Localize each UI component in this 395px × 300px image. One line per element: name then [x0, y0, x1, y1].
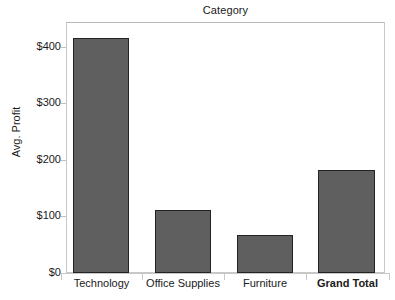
x-axis-line — [61, 273, 390, 274]
y-tick-mark-300 — [61, 103, 66, 104]
chart-title: Category — [66, 3, 385, 17]
y-tick-label-400: $400 — [1, 41, 61, 52]
x-label-technology[interactable]: Technology — [61, 276, 142, 290]
y-tick-label-300: $300 — [1, 97, 61, 108]
y-tick-mark-200 — [61, 160, 66, 161]
y-tick-label-200: $200 — [1, 154, 61, 165]
y-tick-mark-400 — [61, 47, 66, 48]
y-tick-label-100: $100 — [1, 210, 61, 221]
bar-furniture[interactable] — [237, 235, 293, 273]
y-axis-title: Avg. Profit — [10, 72, 22, 192]
bar-grand-total[interactable] — [318, 170, 375, 273]
bar-office-supplies[interactable] — [155, 210, 211, 273]
x-axis-separator — [389, 273, 390, 280]
bar-chart: Category Avg. Profit $0 $100 $200 $300 $… — [0, 0, 395, 300]
bar-technology[interactable] — [73, 38, 129, 273]
y-tick-label-0: $0 — [1, 267, 61, 278]
x-label-furniture[interactable]: Furniture — [224, 276, 306, 290]
x-label-office-supplies[interactable]: Office Supplies — [142, 276, 224, 290]
y-tick-mark-100 — [61, 216, 66, 217]
x-label-grand-total[interactable]: Grand Total — [306, 276, 389, 290]
